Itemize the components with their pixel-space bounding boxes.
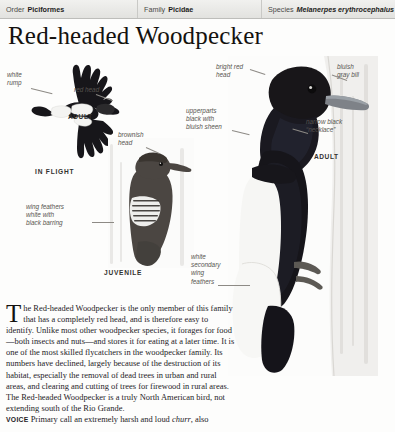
leader-line-wing-feathers bbox=[92, 222, 114, 223]
leader-line-white-secondary bbox=[218, 285, 250, 286]
description-body: he Red-headed Woodpecker is the only mem… bbox=[6, 303, 234, 413]
caption-in-flight: IN FLIGHT bbox=[35, 168, 74, 175]
annotation-brownish-head: brownish head bbox=[118, 131, 144, 147]
field-guide-page: Order Piciformes Family Picidae Species … bbox=[0, 0, 395, 432]
taxonomy-species-value: Melanerpes erythrocephalus bbox=[297, 5, 394, 14]
voice-call-word: churr bbox=[172, 414, 191, 424]
bird-illustration-juvenile bbox=[108, 138, 194, 268]
voice-paragraph: VOICEPrimary call an extremely harsh and… bbox=[6, 414, 238, 425]
page-title: Red-headed Woodpecker bbox=[8, 22, 263, 50]
taxonomy-species-key: Species bbox=[268, 5, 294, 14]
description-paragraph: The Red-headed Woodpecker is the only me… bbox=[6, 303, 238, 414]
taxonomy-header-bar: Order Piciformes Family Picidae Species … bbox=[0, 0, 395, 19]
taxonomy-order-value: Piciformes bbox=[27, 5, 64, 14]
annotation-necklace: narrow black “necklace” bbox=[306, 118, 342, 134]
bird-illustration-adult-perched bbox=[228, 56, 378, 376]
taxonomy-family-value: Picidae bbox=[168, 5, 193, 14]
taxonomy-family-key: Family bbox=[144, 5, 165, 14]
drop-cap: T bbox=[6, 303, 23, 323]
caption-juvenile: JUVENILE bbox=[104, 269, 142, 276]
voice-text-before: Primary call an extremely harsh and loud bbox=[31, 414, 172, 424]
taxonomy-order-cell: Order Piciformes bbox=[0, 0, 138, 18]
caption-adult-perched: ADULT bbox=[314, 153, 339, 160]
annotation-white-secondary-wing-feathers: white secondary wing feathers bbox=[191, 253, 221, 286]
taxonomy-order-key: Order bbox=[6, 5, 24, 14]
taxonomy-species-cell: Species Melanerpes erythrocephalus bbox=[262, 0, 395, 18]
voice-label: VOICE bbox=[6, 416, 29, 423]
caption-adult-in-flight: ADULT bbox=[68, 113, 93, 120]
annotation-white-rump: white rump bbox=[7, 71, 22, 87]
annotation-wing-feathers: wing feathers white with black barring bbox=[26, 203, 64, 228]
taxonomy-family-cell: Family Picidae bbox=[138, 0, 262, 18]
annotation-bright-red-head: bright red head bbox=[216, 63, 243, 79]
voice-text-after: , also bbox=[191, 414, 209, 424]
annotation-upperparts: upperparts black with bluish sheen bbox=[186, 107, 222, 132]
species-description-text: The Red-headed Woodpecker is the only me… bbox=[6, 303, 238, 425]
